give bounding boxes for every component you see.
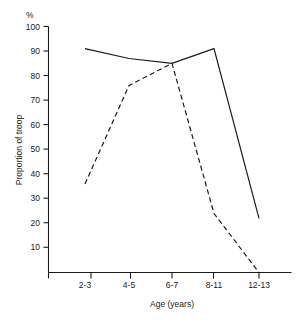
y-axis-title: Proportion of troop [14,115,24,186]
y-axis-tick-labels: 100 90 80 70 60 50 40 30 20 10 [26,22,40,253]
y-tick-label: 60 [31,120,41,130]
x-tick-label: 6-7 [166,280,179,290]
x-tick-label: 2-3 [79,280,92,290]
x-axis-title: Age (years) [150,299,194,309]
y-axis-unit-label: % [26,10,34,20]
y-tick-label: 10 [31,242,41,252]
y-tick-label: 20 [31,218,41,228]
y-tick-label: 50 [31,144,41,154]
series-line-solid [85,49,259,219]
y-axis-ticks [44,27,49,248]
x-axis-ticks [49,273,260,279]
y-tick-label: 90 [31,46,41,56]
y-tick-label: 30 [31,193,41,203]
x-axis-tick-labels: 2-3 4-5 6-7 8-11 12-13 [79,280,270,290]
y-tick-label: 70 [31,95,41,105]
y-tick-label: 100 [26,22,40,32]
line-chart: % 100 90 80 70 60 50 40 30 20 10 [0,0,297,322]
x-tick-label: 8-11 [206,280,223,290]
y-tick-label: 80 [31,71,41,81]
y-tick-label: 40 [31,169,41,179]
x-tick-label: 12-13 [248,280,270,290]
series-line-dashed [85,63,259,272]
x-tick-label: 4-5 [123,280,136,290]
